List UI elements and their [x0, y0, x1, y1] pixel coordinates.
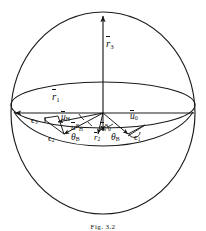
epsilon-label-eps3: ϵ3: [31, 116, 37, 126]
epsilon-label-eps1: ϵ1: [134, 133, 140, 143]
vector-label-uH: uH: [61, 113, 70, 123]
axis-label-r1: r1: [52, 91, 60, 103]
vector-label-u0B: uB0: [100, 123, 111, 133]
figure-container: r3 r1 r2 uH uBH uB0 u0 θB θB ϵ3 ϵ2 ϵ1 Fi…: [0, 0, 206, 231]
figure-caption: Fig. 3.2: [0, 223, 206, 231]
epsilon-label-eps2: ϵ2: [48, 134, 54, 144]
angle-arc-left-inner: [88, 122, 92, 126]
vector-label-u0: u0: [130, 112, 138, 122]
angle-label-thetaB-right: θB: [111, 133, 120, 143]
axis-label-r2: r2: [94, 133, 100, 143]
angle-label-thetaB-left: θB: [71, 133, 80, 143]
axis-label-r3: r3: [106, 38, 114, 50]
